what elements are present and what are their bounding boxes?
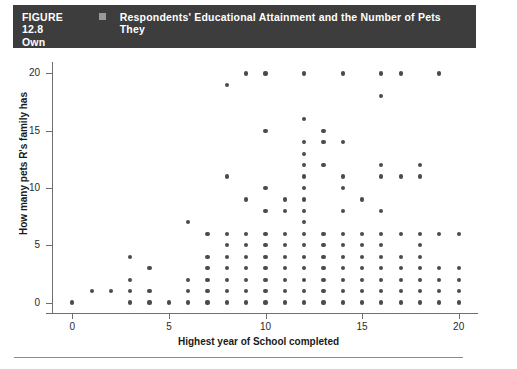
data-point [418, 300, 422, 304]
data-point [321, 163, 325, 167]
figure-caption-bar: FIGURE 12.8 Respondents' Educational Att… [13, 5, 476, 48]
data-point [457, 289, 461, 293]
data-point [399, 71, 403, 75]
data-point [360, 289, 364, 293]
data-point [399, 174, 403, 178]
y-tick-mark [46, 131, 52, 132]
data-point [225, 278, 229, 282]
data-point [360, 255, 364, 259]
x-tick-mark [169, 314, 170, 319]
data-point [341, 174, 345, 178]
data-point [437, 266, 441, 270]
data-point [360, 232, 364, 236]
data-point [205, 300, 209, 304]
data-point [109, 289, 113, 293]
data-point [283, 197, 287, 201]
data-point [302, 152, 306, 156]
data-point [263, 232, 267, 236]
data-point [418, 278, 422, 282]
x-tick-label: 10 [253, 322, 279, 332]
y-tick-mark [46, 73, 52, 74]
data-point [263, 300, 267, 304]
data-point [379, 209, 383, 213]
data-point [302, 289, 306, 293]
data-point [167, 300, 171, 304]
data-point [205, 278, 209, 282]
data-point [379, 232, 383, 236]
data-point [283, 255, 287, 259]
data-point [418, 163, 422, 167]
data-point [321, 300, 325, 304]
data-point [437, 278, 441, 282]
x-tick-label: 0 [59, 322, 85, 332]
data-point [437, 289, 441, 293]
y-axis-line [52, 62, 53, 314]
data-point [186, 300, 190, 304]
data-point [302, 197, 306, 201]
data-point [457, 300, 461, 304]
data-point [225, 83, 229, 87]
data-point [205, 255, 209, 259]
y-axis-title: How many pets R's family has [18, 79, 29, 249]
data-point [341, 278, 345, 282]
data-point [244, 197, 248, 201]
y-tick-label: 0 [14, 298, 40, 308]
data-point [360, 278, 364, 282]
caption-first-line: FIGURE 12.8 Respondents' Educational Att… [22, 11, 467, 35]
y-tick-mark [46, 188, 52, 189]
data-point [321, 243, 325, 247]
data-point [379, 289, 383, 293]
x-tick-mark [266, 314, 267, 319]
data-point [225, 266, 229, 270]
data-point [186, 289, 190, 293]
data-point [399, 232, 403, 236]
data-point [225, 243, 229, 247]
data-point [379, 266, 383, 270]
data-point [379, 243, 383, 247]
data-point [437, 232, 441, 236]
x-tick-mark [362, 314, 363, 319]
data-point [147, 266, 151, 270]
data-point [244, 243, 248, 247]
x-tick-label: 15 [349, 322, 375, 332]
filled-square-icon [99, 13, 106, 20]
x-tick-label: 5 [156, 322, 182, 332]
data-point [418, 255, 422, 259]
data-point [186, 278, 190, 282]
data-point [263, 71, 267, 75]
bottom-divider-rule [14, 357, 463, 358]
scatter-plot: 05101520 05101520 How many pets R's fami… [0, 50, 517, 340]
data-point [263, 209, 267, 213]
data-point [283, 209, 287, 213]
data-point [302, 174, 306, 178]
data-point [263, 186, 267, 190]
data-point [457, 232, 461, 236]
data-point [321, 266, 325, 270]
data-point [302, 220, 306, 224]
data-point [283, 266, 287, 270]
x-axis-title: Highest year of School completed [0, 336, 517, 347]
data-point [302, 209, 306, 213]
data-point [379, 255, 383, 259]
data-point [128, 278, 132, 282]
data-point [283, 289, 287, 293]
data-point [225, 232, 229, 236]
data-point [244, 232, 248, 236]
data-point [341, 266, 345, 270]
data-point [399, 289, 403, 293]
x-tick-label: 20 [446, 322, 472, 332]
data-point [360, 243, 364, 247]
data-point [418, 232, 422, 236]
data-point [244, 71, 248, 75]
data-point [70, 300, 74, 304]
data-point [379, 300, 383, 304]
y-tick-label: 20 [14, 68, 40, 78]
data-point [399, 278, 403, 282]
data-point [302, 278, 306, 282]
data-point [457, 266, 461, 270]
data-point [283, 278, 287, 282]
data-point [128, 300, 132, 304]
data-point [360, 266, 364, 270]
data-point [244, 289, 248, 293]
data-point [379, 278, 383, 282]
